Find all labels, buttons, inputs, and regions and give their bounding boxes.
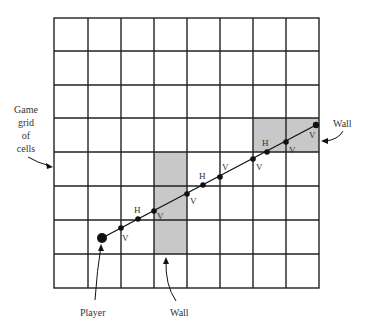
marker-h-2: H: [199, 171, 206, 181]
wall-bottom-arrow-icon: [166, 260, 176, 301]
grid-label-line-1: Game: [14, 104, 38, 115]
marker-v-6: V: [289, 145, 296, 155]
player-dot: [97, 233, 107, 243]
wall-right-label: Wall: [333, 118, 352, 129]
marker-v-3: V: [190, 196, 197, 206]
grid-label-line-4: cells: [17, 143, 35, 154]
marker-h-3: H: [262, 138, 269, 148]
marker-v-2: V: [157, 211, 164, 221]
arrowhead-icon: [163, 257, 169, 264]
arrowhead-icon: [321, 138, 328, 144]
marker-v-4: V: [222, 162, 229, 172]
marker-v-7: V: [309, 130, 316, 140]
arrowhead-icon: [98, 244, 104, 251]
wall-bottom-label: Wall: [170, 307, 189, 318]
raycast-diagram: V H V V H V V H V V Game grid of cells W…: [0, 0, 369, 328]
game-grid: [54, 18, 319, 288]
marker-v-1: V: [122, 233, 129, 243]
wall-center: [154, 152, 187, 254]
arrowhead-icon: [46, 163, 53, 169]
marker-v-5: V: [256, 162, 263, 172]
marker-h-1: H: [134, 205, 141, 215]
grid-label-line-2: grid: [18, 117, 34, 128]
player-label: Player: [80, 307, 106, 318]
grid-label-line-3: of: [22, 130, 31, 141]
